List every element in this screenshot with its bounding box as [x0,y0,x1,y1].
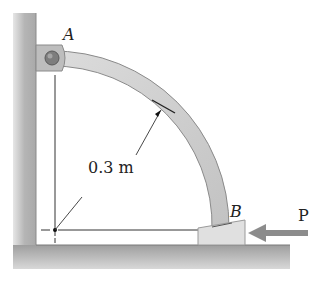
label-radius: 0.3 m [88,160,134,176]
force-arrow-p [248,224,308,242]
label-point-a: A [63,27,75,43]
sliding-block-b [198,220,245,245]
label-point-b: B [230,204,242,220]
wall [13,13,36,245]
label-force-p: P [298,208,309,224]
diagram-canvas: A B 0.3 m P [0,0,324,283]
floor [13,245,290,269]
pin-support-a [36,45,65,71]
